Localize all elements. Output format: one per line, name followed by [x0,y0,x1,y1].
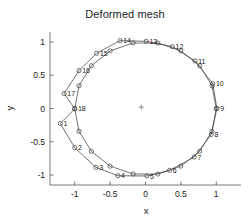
deformed-mesh-plot: -1-0.500.51 -1-0.500.51 1234567891011121… [0,0,250,220]
node-label: 3 [99,164,103,171]
x-tick-label: -0.5 [103,189,118,199]
y-axis-label: y [4,105,15,110]
node-label: 17 [67,90,75,97]
x-tick-label: 0.5 [175,189,187,199]
x-axis-label: x [144,205,149,216]
x-tick-label: 0 [143,189,148,199]
node-label: 18 [78,105,86,112]
x-tick-label: 1 [214,189,219,199]
y-tick-label: 0.5 [33,70,45,80]
node-label: 16 [82,67,90,74]
x-axis-ticks: -1-0.500.51 [71,182,219,200]
x-tick-label: -1 [71,189,79,199]
node-label: 7 [198,154,202,161]
node-label: 8 [214,131,218,138]
node-label: 4 [121,172,125,179]
node-label: 9 [220,105,224,112]
y-tick-label: -1 [37,170,45,180]
node-label: 14 [123,37,131,44]
y-tick-label: -0.5 [30,137,45,147]
node-labels: 123456789101112131415161718 [63,37,224,179]
node-label: 1 [63,120,67,127]
node-label: 12 [176,43,184,50]
node-label: 11 [198,58,205,65]
y-tick-label: 0 [40,104,45,114]
mesh-outline-0 [75,43,216,174]
node-label: 5 [150,173,154,180]
node-label: 6 [173,167,177,174]
figure-canvas: Deformed mesh -1-0.500.51 -1-0.500.51 12… [0,0,250,220]
node-label: 2 [78,144,82,151]
node-label: 13 [149,38,157,45]
y-tick-label: 1 [40,37,45,47]
node-label: 10 [216,80,224,87]
node-label: 15 [100,50,108,57]
annotations [139,105,144,110]
